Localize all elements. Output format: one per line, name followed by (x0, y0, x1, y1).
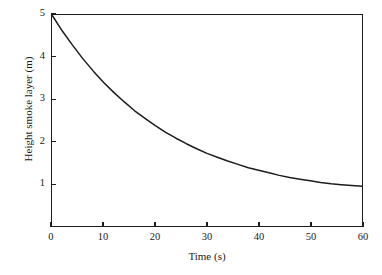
x-tick-label: 40 (244, 231, 274, 242)
y-tick-mark (51, 184, 56, 185)
x-tick-label: 0 (36, 231, 66, 242)
y-tick-mark (51, 13, 56, 14)
x-tick-label: 10 (88, 231, 118, 242)
x-tick-label: 30 (192, 231, 222, 242)
x-axis-title: Time (s) (51, 250, 363, 262)
y-tick-mark (51, 141, 56, 142)
x-tick-mark (310, 222, 311, 227)
x-tick-label: 20 (140, 231, 170, 242)
plot-area (51, 14, 363, 227)
x-tick-mark (154, 222, 155, 227)
y-tick-label: 5 (31, 8, 45, 19)
x-tick-label: 50 (296, 231, 326, 242)
smoke-layer-height-curve (52, 15, 362, 226)
x-tick-mark (206, 222, 207, 227)
y-tick-mark (51, 99, 56, 100)
data-line (52, 15, 362, 186)
chart-figure: 12345 0102030405060 Time (s) Height smok… (0, 0, 382, 275)
x-tick-mark (102, 222, 103, 227)
x-tick-mark (50, 222, 51, 227)
x-tick-mark (362, 222, 363, 227)
x-tick-label: 60 (348, 231, 378, 242)
x-tick-mark (258, 222, 259, 227)
y-axis-title: Height smoke layer (m) (22, 29, 34, 189)
y-tick-mark (51, 56, 56, 57)
